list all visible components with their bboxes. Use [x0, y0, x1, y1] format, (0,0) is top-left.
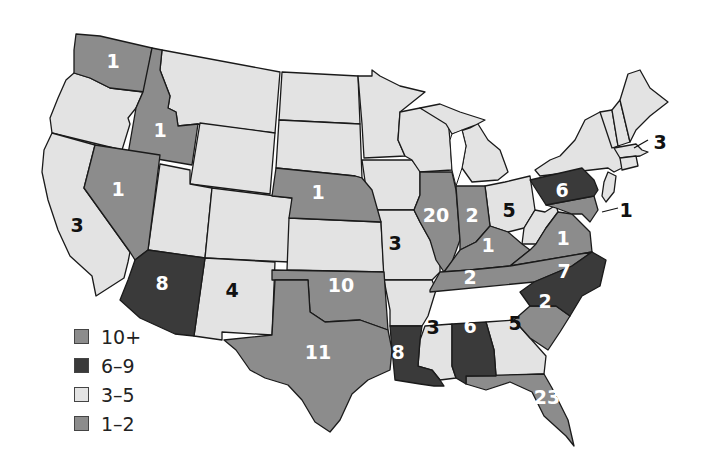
state-ct [620, 156, 638, 170]
state-co [205, 188, 292, 262]
legend-label-10plus: 10+ [101, 326, 141, 348]
label-tx: 11 [305, 341, 331, 363]
label-ky: 1 [481, 234, 494, 256]
legend-swatch-1to2 [74, 416, 89, 431]
label-sc: 2 [538, 290, 551, 312]
label-wa: 1 [106, 50, 119, 72]
legend-item-10plus: 10+ [74, 322, 141, 351]
label-ok: 10 [328, 274, 354, 296]
label-va: 1 [556, 227, 569, 249]
legend-item-3to5: 3–5 [74, 380, 141, 409]
legend-label-6to9: 6–9 [101, 355, 135, 377]
legend-swatch-3to5 [74, 387, 89, 402]
legend-item-6to9: 6–9 [74, 351, 141, 380]
label-tn: 2 [463, 266, 476, 288]
label-ms: 3 [426, 316, 439, 338]
label-nm: 4 [225, 279, 238, 301]
label-in: 2 [465, 204, 478, 226]
legend-label-1to2: 1–2 [101, 413, 135, 435]
label-ne: 1 [311, 181, 324, 203]
state-ks [287, 218, 384, 272]
label-id: 1 [153, 119, 166, 141]
label-az: 8 [155, 272, 168, 294]
label-pa: 6 [555, 179, 568, 201]
state-wy [190, 123, 275, 194]
label-ga: 5 [508, 312, 521, 334]
legend-item-1to2: 1–2 [74, 409, 141, 438]
legend-swatch-6to9 [74, 358, 89, 373]
legend: 10+ 6–9 3–5 1–2 [74, 322, 141, 438]
legend-label-3to5: 3–5 [101, 384, 135, 406]
callout-line-mid-atlantic [602, 208, 618, 212]
label-il: 20 [423, 204, 449, 226]
label-oh: 5 [502, 199, 515, 221]
label-al: 6 [463, 315, 476, 337]
label-ca: 3 [70, 214, 83, 236]
label-mo: 3 [388, 232, 401, 254]
legend-swatch-10plus [74, 329, 89, 344]
label-new-england: 3 [653, 131, 666, 153]
state-nj [602, 172, 616, 202]
label-fl: 23 [534, 386, 560, 408]
label-mid-atlantic: 1 [619, 199, 632, 221]
state-nd [279, 72, 360, 124]
state-mt [160, 50, 280, 133]
state-fl [466, 374, 574, 446]
label-nc: 7 [557, 260, 570, 282]
label-la: 8 [391, 341, 404, 363]
label-nv: 1 [111, 178, 124, 200]
